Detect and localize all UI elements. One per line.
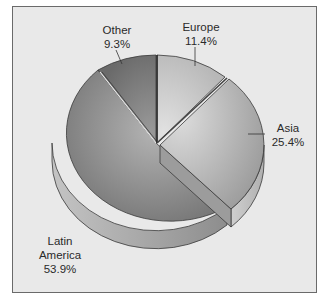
label-asia-pct: 25.4% — [266, 135, 310, 149]
label-europe: Europe 11.4% — [176, 20, 226, 48]
label-latin-america: Latin America 53.9% — [36, 234, 84, 276]
label-latin-line1: Latin — [36, 234, 84, 248]
label-latin-pct: 53.9% — [36, 262, 84, 276]
label-europe-name: Europe — [176, 20, 226, 34]
label-europe-pct: 11.4% — [176, 34, 226, 48]
label-other: Other 9.3% — [95, 23, 139, 51]
label-other-name: Other — [95, 23, 139, 37]
label-other-pct: 9.3% — [95, 37, 139, 51]
label-asia: Asia 25.4% — [266, 121, 310, 149]
label-asia-name: Asia — [266, 121, 310, 135]
label-latin-line2: America — [36, 248, 84, 262]
